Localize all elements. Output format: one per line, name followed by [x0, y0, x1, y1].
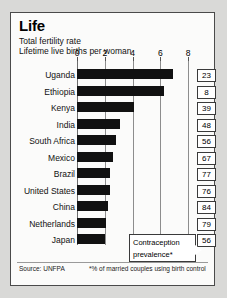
subtitle-fertility-rate: Total fertility rate	[19, 36, 81, 46]
callout-box: Contraception prevalence*	[129, 234, 196, 262]
category-axis-labels: UgandaEthiopiaKenyaIndiaSouth AfricaMexi…	[19, 61, 75, 245]
category-label: Kenya	[51, 103, 75, 113]
callout-line-2: prevalence*	[133, 249, 195, 261]
bar-chart-plot-area: 02468	[77, 61, 188, 245]
contraception-value-box: 67	[197, 152, 216, 165]
bar	[77, 119, 120, 129]
contraception-value-box: 23	[197, 69, 216, 82]
category-label: Japan	[52, 235, 75, 245]
category-label: Brazil	[54, 169, 75, 179]
bar	[77, 218, 106, 228]
x-axis-tick-label: 2	[102, 48, 107, 58]
category-label: China	[53, 202, 75, 212]
contraception-value-box: 56	[197, 135, 216, 148]
source-label: Source: UNFPA	[19, 265, 65, 272]
category-label: India	[57, 120, 75, 130]
bar	[77, 234, 105, 244]
category-label: Netherlands	[29, 219, 75, 229]
contraception-value-box: 8	[197, 86, 216, 99]
x-axis-tick-label: 8	[186, 48, 191, 58]
category-label: United States	[24, 186, 75, 196]
x-axis-tick-label: 0	[75, 48, 80, 58]
contraception-value-box: 48	[197, 119, 216, 132]
category-label: Mexico	[48, 153, 75, 163]
contraception-value-box: 77	[197, 168, 216, 181]
footnote-label: *% of married couples using birth contro…	[89, 265, 206, 272]
bar	[77, 86, 164, 96]
callout-pointer-icon	[195, 245, 202, 255]
x-axis-tick-label: 4	[130, 48, 135, 58]
category-label: South Africa	[29, 136, 75, 146]
bar	[77, 185, 110, 195]
category-label: Uganda	[45, 70, 75, 80]
contraception-value-box: 39	[197, 102, 216, 115]
contraception-value-box: 84	[197, 201, 216, 214]
bar	[77, 201, 108, 211]
category-label: Ethiopia	[44, 87, 75, 97]
bar	[77, 152, 113, 162]
callout-line-1: Contraception	[133, 237, 195, 249]
bar	[77, 168, 110, 178]
infographic-panel: Life Total fertility rate Lifetime live …	[10, 12, 215, 286]
footer-divider	[17, 262, 208, 263]
bar	[77, 135, 116, 145]
page-title: Life	[19, 17, 45, 34]
contraception-value-column: 238394856677776847956	[197, 61, 221, 245]
x-axis-tick-label: 6	[158, 48, 163, 58]
contraception-value-box: 76	[197, 185, 216, 198]
bar	[77, 102, 134, 112]
contraception-value-box: 79	[197, 218, 216, 231]
gridline-8	[188, 61, 189, 245]
bar	[77, 69, 173, 79]
